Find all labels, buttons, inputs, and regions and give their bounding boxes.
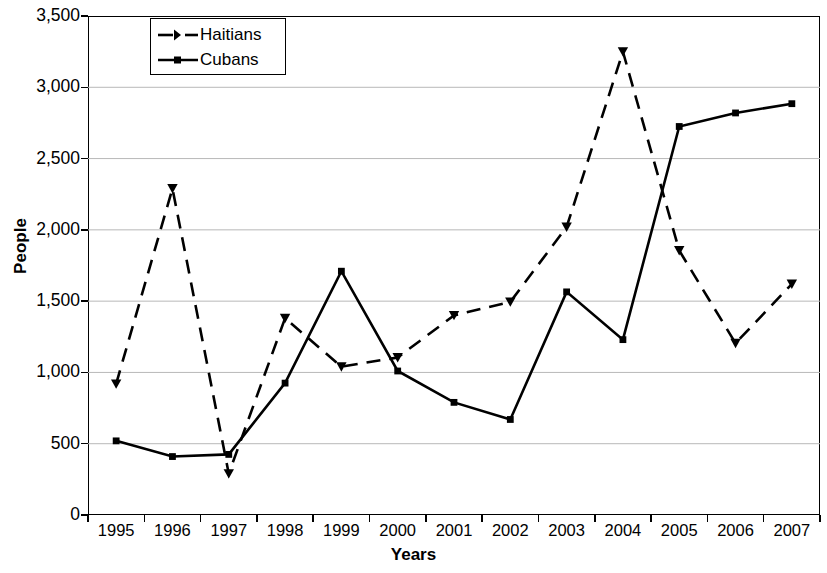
data-point-marker-cubans-2007 xyxy=(788,100,795,107)
data-point-marker-cubans-1997 xyxy=(225,451,232,458)
x-axis-tick-label: 2006 xyxy=(717,521,754,540)
y-axis-tick-label: 2,500 xyxy=(6,150,80,168)
x-axis-tick-label: 1999 xyxy=(323,521,360,540)
plot-canvas xyxy=(88,16,820,515)
x-axis-tick-label: 1995 xyxy=(98,521,135,540)
x-axis-title: Years xyxy=(0,545,827,565)
x-axis-tick-label: 1998 xyxy=(267,521,304,540)
data-point-marker-haitians-2002 xyxy=(505,297,515,306)
y-axis-tick-label: 0 xyxy=(6,506,80,524)
y-axis-tick-label: 3,500 xyxy=(6,7,80,25)
legend-label-cubans: Cubans xyxy=(200,51,259,68)
chart-legend: Haitians Cubans xyxy=(150,18,286,75)
y-axis-tick-labels: 05001,0001,5002,0002,5003,0003,500 xyxy=(0,0,80,573)
y-axis-tick-label: 500 xyxy=(6,435,80,453)
y-axis-tick-mark xyxy=(81,372,88,374)
y-axis-tick-label: 1,500 xyxy=(6,292,80,310)
x-axis-tick-label: 2000 xyxy=(379,521,416,540)
x-axis-tick-mark xyxy=(312,515,314,522)
x-axis-tick-label: 1996 xyxy=(154,521,191,540)
data-point-marker-haitians-2006 xyxy=(730,339,740,348)
x-axis-tick-mark xyxy=(369,515,371,522)
data-point-marker-cubans-1995 xyxy=(113,437,120,444)
x-axis-tick-mark xyxy=(763,515,765,522)
x-axis-tick-mark xyxy=(538,515,540,522)
x-axis-tick-mark xyxy=(594,515,596,522)
x-axis-tick-mark xyxy=(200,515,202,522)
data-point-marker-haitians-2004 xyxy=(618,47,628,56)
data-point-marker-haitians-1997 xyxy=(224,469,234,478)
data-point-marker-cubans-2004 xyxy=(620,336,627,343)
dashed-line-triangle-marker-icon xyxy=(157,27,199,43)
x-axis-tick-label: 1997 xyxy=(210,521,247,540)
data-point-marker-haitians-1998 xyxy=(280,314,290,323)
x-axis-tick-mark xyxy=(650,515,652,522)
y-axis-tick-mark xyxy=(81,158,88,160)
data-point-marker-cubans-2006 xyxy=(732,110,739,117)
data-point-marker-haitians-1996 xyxy=(167,184,177,193)
data-point-marker-cubans-1999 xyxy=(338,268,345,275)
x-axis-tick-label: 2005 xyxy=(661,521,698,540)
data-point-marker-cubans-2000 xyxy=(394,368,401,375)
line-chart: People 05001,0001,5002,0002,5003,0003,50… xyxy=(0,0,827,573)
x-axis-tick-mark xyxy=(481,515,483,522)
legend-item-haitians: Haitians xyxy=(157,22,279,47)
data-point-marker-cubans-2003 xyxy=(563,288,570,295)
x-axis-tick-label: 2007 xyxy=(773,521,810,540)
series-line-haitians xyxy=(116,52,792,474)
data-point-marker-cubans-2001 xyxy=(451,399,458,406)
solid-line-square-marker-icon xyxy=(157,52,199,68)
x-axis-tick-label: 2002 xyxy=(492,521,529,540)
x-axis-tick-label: 2003 xyxy=(548,521,585,540)
y-axis-tick-label: 3,000 xyxy=(6,79,80,97)
y-axis-tick-mark xyxy=(81,15,88,17)
y-axis-tick-mark xyxy=(81,87,88,89)
x-axis-tick-mark xyxy=(256,515,258,522)
x-axis-tick-mark xyxy=(144,515,146,522)
data-point-marker-haitians-2003 xyxy=(561,223,571,232)
x-axis-tick-mark xyxy=(425,515,427,522)
data-point-marker-cubans-1998 xyxy=(282,380,289,387)
legend-item-cubans: Cubans xyxy=(157,47,279,72)
x-axis-tick-label: 2001 xyxy=(436,521,473,540)
x-axis-tick-mark xyxy=(87,515,89,522)
y-axis-tick-mark xyxy=(81,229,88,231)
data-point-marker-cubans-1996 xyxy=(169,453,176,460)
data-point-marker-cubans-2002 xyxy=(507,416,514,423)
y-axis-tick-mark xyxy=(81,443,88,445)
data-point-marker-haitians-1995 xyxy=(111,379,121,388)
y-axis-tick-label: 2,000 xyxy=(6,221,80,239)
x-axis-tick-mark xyxy=(707,515,709,522)
data-point-marker-cubans-2005 xyxy=(676,123,683,130)
y-axis-tick-label: 1,000 xyxy=(6,364,80,382)
legend-label-haitians: Haitians xyxy=(200,26,261,43)
x-axis-tick-label: 2004 xyxy=(605,521,642,540)
y-axis-tick-mark xyxy=(81,300,88,302)
x-axis-tick-mark xyxy=(819,515,821,522)
